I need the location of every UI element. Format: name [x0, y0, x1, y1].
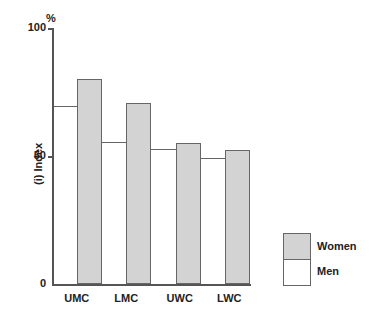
bar-women-lmc	[126, 103, 151, 284]
legend-swatch-men	[283, 259, 311, 286]
plot-area	[52, 28, 252, 284]
bar-men-uwc	[151, 149, 176, 284]
y-tick-100: 100	[16, 21, 46, 33]
bar-men-lwc	[201, 158, 226, 284]
y-tick-mark-100	[48, 28, 52, 30]
y-axis-line	[52, 28, 54, 285]
x-category-label: UMC	[57, 292, 97, 304]
legend-label-men: Men	[317, 265, 339, 277]
x-category-label: LWC	[209, 292, 249, 304]
y-axis-title: (i) Index	[32, 143, 44, 185]
y-tick-mark-50	[48, 156, 52, 158]
y-axis-unit: %	[46, 12, 56, 24]
bar-men-lmc	[102, 142, 127, 284]
bar-women-uwc	[176, 143, 201, 284]
x-category-label: LMC	[106, 292, 146, 304]
legend-label-women: Women	[317, 240, 357, 252]
bar-women-umc	[77, 79, 102, 284]
x-category-label: UWC	[160, 292, 200, 304]
legend-swatch-women	[283, 233, 311, 260]
bar-men-umc	[52, 106, 77, 284]
x-axis-line	[52, 284, 251, 286]
bar-women-lwc	[225, 150, 250, 284]
y-tick-0: 0	[16, 277, 46, 289]
